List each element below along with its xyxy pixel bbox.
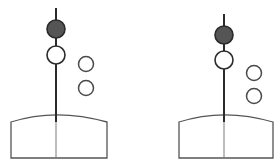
open-circle-shape xyxy=(215,51,233,69)
open-circle-shape-lower xyxy=(247,89,262,104)
panel-left xyxy=(11,8,107,158)
filled-circle-shape xyxy=(47,20,65,38)
open-circle-shape-upper xyxy=(247,66,262,81)
open-circle-shape-lower xyxy=(79,81,94,96)
panel-right xyxy=(179,14,273,158)
vessel-signal-shapes-diagram xyxy=(0,0,280,168)
open-circle-shape-upper xyxy=(79,57,94,72)
hull-outline-path xyxy=(179,115,273,158)
filled-circle-shape xyxy=(215,26,233,44)
vessel-hull-left xyxy=(11,114,107,158)
diagram-canvas xyxy=(0,0,280,168)
open-circle-shape xyxy=(47,46,65,64)
vessel-hull-right xyxy=(179,114,273,158)
hull-outline-path xyxy=(11,115,107,158)
